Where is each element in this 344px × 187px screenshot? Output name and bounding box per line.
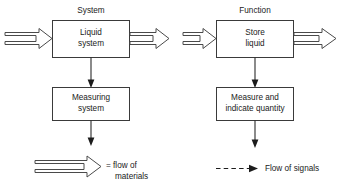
signal-arrow-store-to-measure <box>252 58 259 89</box>
box-store-liquid-line1: Store <box>245 28 265 38</box>
signal-arrow-measure-out <box>252 121 259 149</box>
output-material-arrow-left <box>130 29 169 49</box>
box-measure-indicate-quantity-line2: indicate quantity <box>225 104 284 114</box>
input-material-arrow-left <box>5 29 52 49</box>
legend-material-flow-line2: materials <box>115 172 148 182</box>
column-header-system: System <box>77 6 104 16</box>
signal-arrow-measuring-out <box>88 121 95 147</box>
legend-hollow-arrow-icon <box>35 156 101 177</box>
box-measure-indicate-quantity-line1: Measure and <box>231 93 279 103</box>
box-measuring-system-line2: system <box>78 104 104 114</box>
signal-arrow-liquid-to-measuring <box>88 58 95 89</box>
legend-signal-flow-label: Flow of signals <box>265 164 319 174</box>
legend-material-flow-line1: = flow of <box>106 161 137 171</box>
box-store-liquid-line2: liquid <box>245 39 264 49</box>
legend-dashed-arrow-icon <box>216 165 258 172</box>
column-header-function: Function <box>239 6 270 16</box>
output-material-arrow-right <box>294 29 336 49</box>
input-material-arrow-right <box>183 29 216 49</box>
box-measuring-system-line1: Measuring <box>72 93 110 103</box>
box-liquid-system-line2: system <box>78 39 104 49</box>
box-liquid-system-line1: Liquid <box>80 28 102 38</box>
diagram-canvas <box>0 0 344 187</box>
block-diagram: System Function Liquid system Measuring … <box>0 0 344 187</box>
